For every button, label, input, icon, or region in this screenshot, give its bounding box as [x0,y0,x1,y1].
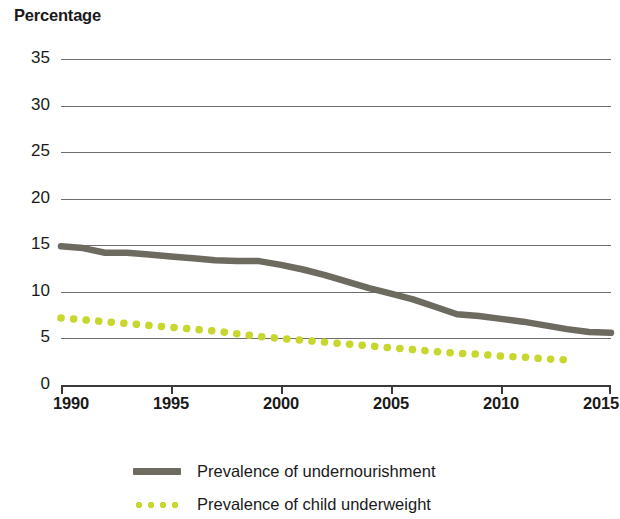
y-tick-label-25: 25 [6,141,50,161]
y-tick-label-20: 20 [6,188,50,208]
legend-swatch-solid-icon [133,468,181,475]
x-tick-2015 [609,385,611,394]
y-tick-label-5: 5 [6,327,50,347]
x-tick-label-1990: 1990 [53,394,89,413]
x-tick-1995 [171,385,173,394]
x-axis-line [61,385,611,387]
x-tick-2010 [501,385,503,394]
x-tick-label-2005: 2005 [373,394,409,413]
gridline-20 [61,199,611,200]
y-tick-label-10: 10 [6,281,50,301]
gridline-15 [61,245,611,246]
gridline-30 [61,106,611,107]
legend-label: Prevalence of child underweight [197,495,431,514]
chart-legend: Prevalence of undernourishmentPrevalence… [0,455,620,519]
x-tick-label-2000: 2000 [263,394,299,413]
x-tick-label-1995: 1995 [153,394,189,413]
chart-figure: Percentage 05101520253035 19901995200020… [0,0,620,519]
y-tick-label-0: 0 [6,374,50,394]
y-tick-label-15: 15 [6,234,50,254]
gridline-35 [61,59,611,60]
legend-label: Prevalence of undernourishment [197,462,435,481]
legend-item-undernourishment[interactable]: Prevalence of undernourishment [0,455,620,488]
gridline-25 [61,152,611,153]
y-tick-label-35: 35 [6,48,50,68]
x-tick-label-2010: 2010 [483,394,519,413]
gridline-5 [61,338,611,339]
x-tick-1990 [61,385,63,394]
legend-item-child-underweight[interactable]: Prevalence of child underweight [0,488,620,519]
y-tick-label-30: 30 [6,95,50,115]
legend-swatch-dotted-icon [133,501,181,509]
x-tick-2000 [281,385,283,394]
x-tick-2005 [391,385,393,394]
x-tick-label-2015: 2015 [583,394,619,413]
gridline-10 [61,292,611,293]
y-axis-tick-labels: 05101520253035 [0,0,50,519]
plot-area [61,59,611,385]
